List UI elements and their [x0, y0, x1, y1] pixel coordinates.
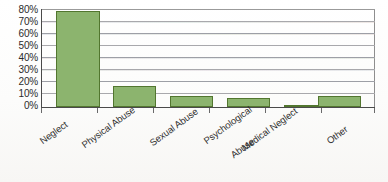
bar-neglect	[56, 11, 100, 107]
y-axis: 80% 70% 60% 50% 40% 30% 20% 10% 0%	[0, 0, 40, 120]
bar-physical-abuse	[113, 86, 156, 107]
x-label-other: Other	[325, 124, 350, 146]
bar-sexual-abuse	[170, 96, 213, 107]
gridline-80	[42, 9, 375, 10]
bar-chart: 80% 70% 60% 50% 40% 30% 20% 10% 0%	[0, 0, 388, 182]
y-tick-label-40: 40%	[19, 53, 38, 63]
x-label-sexual-abuse: Sexual Abuse	[148, 107, 200, 149]
x-axis: Neglect Physical Abuse Sexual Abuse Psyc…	[0, 108, 388, 182]
y-tick-label-80: 80%	[19, 5, 38, 15]
x-label-physical-abuse: Physical Abuse	[80, 105, 137, 151]
y-tick-label-30: 30%	[19, 65, 38, 75]
plot-area	[41, 9, 375, 108]
y-tick-label-50: 50%	[19, 41, 38, 51]
y-tick-label-60: 60%	[19, 29, 38, 39]
x-label-neglect: Neglect	[38, 119, 70, 146]
y-tick-label-70: 70%	[19, 17, 38, 27]
y-tick-label-10: 10%	[19, 89, 38, 99]
bar-other	[318, 96, 361, 107]
y-tick-label-20: 20%	[19, 77, 38, 87]
